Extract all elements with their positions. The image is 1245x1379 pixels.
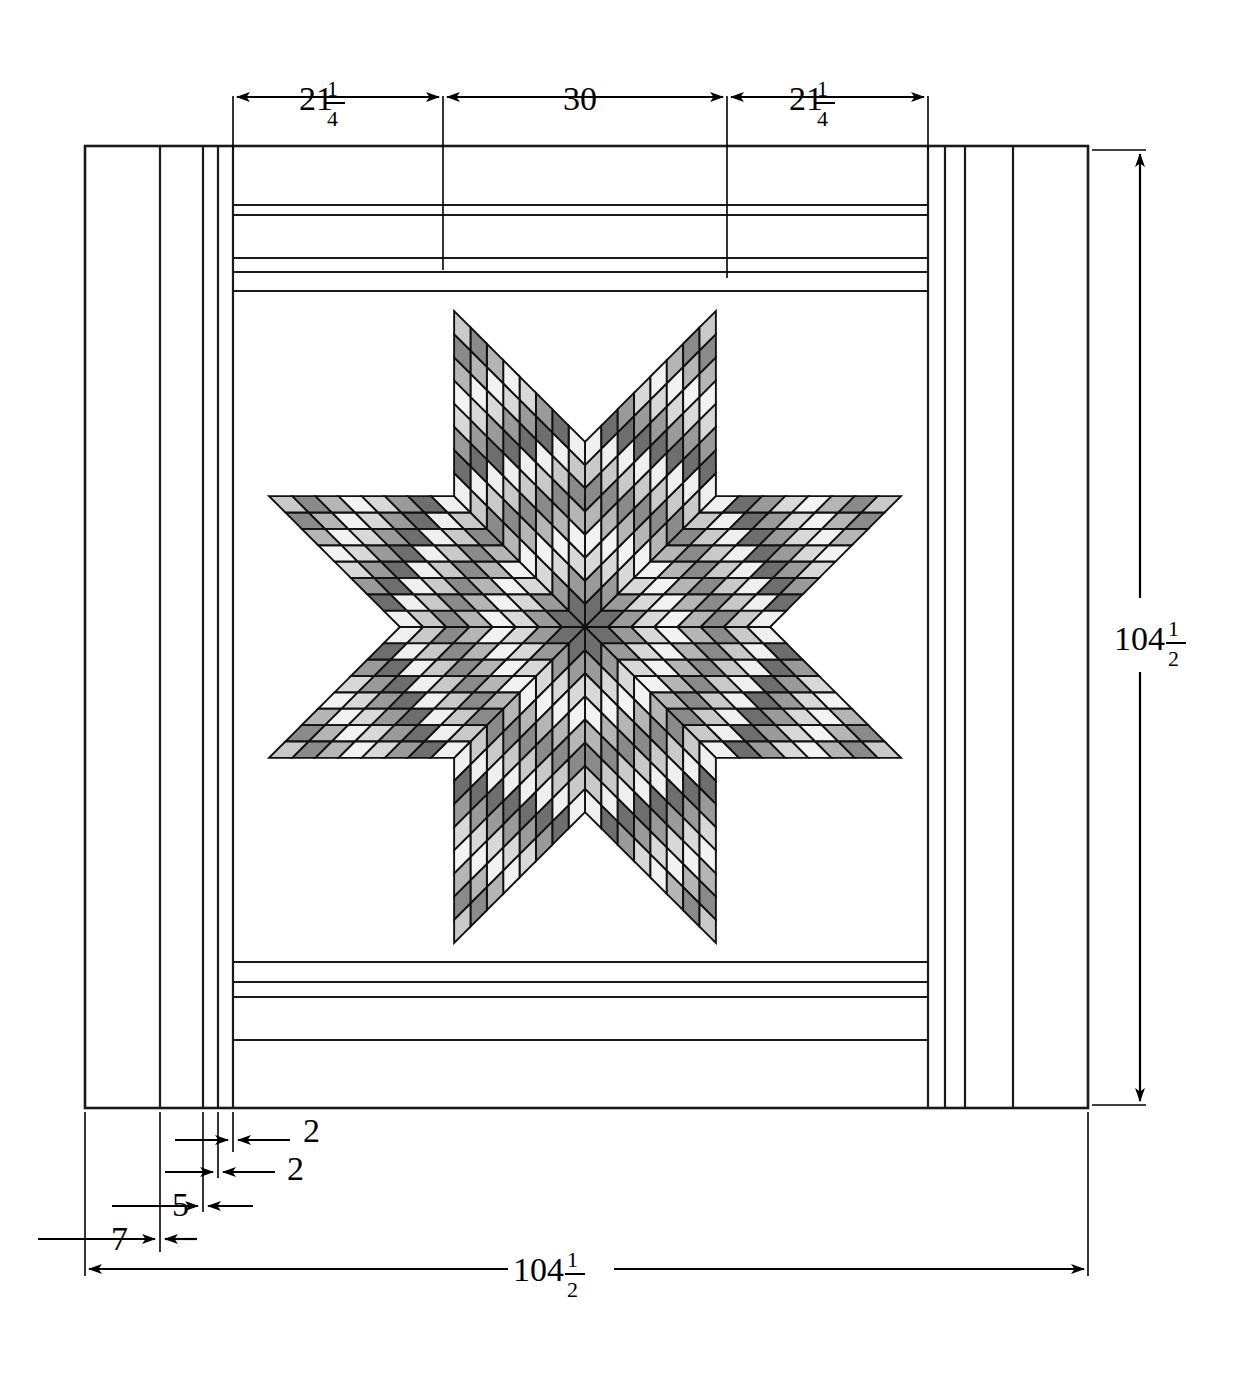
dim-label-top-right-num: 1 [817,76,828,101]
dim-label-border-5: 5 [172,1186,189,1223]
dim-label-right-whole: 104 [1114,620,1165,657]
dim-label-top-left-den: 4 [327,106,338,131]
dim-label-strip-2a: 2 [287,1150,304,1187]
dim-label-right-num: 1 [1168,616,1179,641]
dim-label-strip-2b: 2 [303,1112,320,1149]
quilt-diagram: 21 1 4 30 21 1 4 104 1 2 104 1 2 2 2 5 7 [0,0,1245,1379]
dim-label-bottom-num: 1 [567,1247,578,1272]
dim-label-bottom-den: 2 [567,1277,578,1302]
dim-label-binding-7: 7 [111,1220,128,1257]
dim-label-top-left-num: 1 [327,76,338,101]
dim-label-bottom-whole: 104 [513,1251,564,1288]
dim-label-right-den: 2 [1168,646,1179,671]
lone-star-block [269,311,901,943]
dim-label-top-center: 30 [563,80,597,117]
dim-label-top-right-den: 4 [817,106,828,131]
quilt-drawing-canvas: 21 1 4 30 21 1 4 104 1 2 104 1 2 2 2 5 7 [0,0,1245,1379]
